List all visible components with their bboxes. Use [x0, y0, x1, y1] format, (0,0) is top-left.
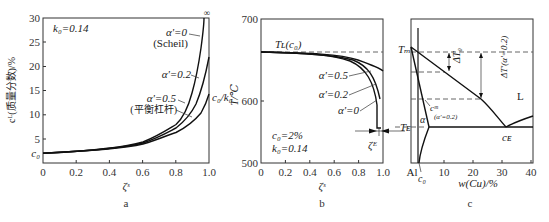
xtick: 0.4 — [303, 166, 317, 178]
ytick: 30 — [29, 12, 41, 24]
ytick: 5 — [35, 133, 41, 145]
xtick: 10 — [439, 166, 451, 178]
panel-b-ylabel: T/℃ — [228, 84, 240, 106]
xtick: 0 — [258, 166, 264, 178]
leader-b-alpha-0 — [360, 100, 377, 111]
panel-a-xlabel: ζˢ — [123, 180, 130, 193]
panel-a-ylabel: cᴸ(质量分数)/% — [5, 57, 18, 123]
infinity-label: ∞ — [204, 8, 210, 18]
label-b-alpha-0.2: α'=0.2 — [319, 88, 349, 100]
panel-b: 700 600 500 0 0.2 0.4 0.6 0.8 1.0 T/℃ ζˢ… — [228, 13, 411, 209]
ytick: 700 — [242, 13, 259, 25]
tl-label: Tʟ(c₀) — [275, 38, 302, 51]
label-scheil-sub: (Scheil) — [153, 37, 188, 50]
tm-label: Tₘ — [398, 43, 411, 55]
leader-c0 — [419, 163, 421, 172]
xtick: 0.2 — [279, 166, 293, 178]
liquidus-hypereutectic — [506, 116, 533, 127]
xtick: 0.6 — [136, 166, 150, 178]
ce-label: cᴇ — [502, 131, 512, 143]
ytick: 600 — [242, 95, 259, 107]
xtick: 1.0 — [376, 166, 390, 178]
alpha-label: α — [420, 114, 426, 125]
xtick: 40 — [526, 166, 538, 178]
label-alpha-0.5: α'=0.5 — [147, 92, 177, 104]
label-b-alpha-0.5: α'=0.5 — [319, 69, 349, 81]
delta-t0-arrow: ΔT₀ — [447, 48, 462, 71]
xtick: 30 — [497, 166, 509, 178]
label-b-alpha-0: α'=0 — [338, 104, 360, 116]
zeta-e-marker: ζᴱ — [355, 128, 405, 152]
label-alpha-0.2: α'=0.2 — [162, 68, 192, 80]
figure-canvas: 30 25 20 15 10 5 c₀ 0 0.2 0.4 0.6 0.8 1.… — [0, 0, 549, 222]
cm-label: cᵐ — [430, 103, 439, 113]
param-c0: c₀=2% — [272, 129, 303, 141]
param-k0: k₀=0.14 — [272, 142, 308, 154]
panel-a: 30 25 20 15 10 5 c₀ 0 0.2 0.4 0.6 0.8 1.… — [5, 8, 233, 209]
delta-t-prime-label: ΔT'(α'=0.2) — [499, 36, 509, 79]
delta-t0-label: ΔT₀ — [451, 48, 462, 64]
leader-alpha-0.2 — [191, 75, 199, 78]
ytick: 500 — [242, 157, 259, 169]
al-label: Al — [407, 166, 418, 178]
leader-b-alpha-0.2 — [349, 84, 376, 95]
xtick: 0.2 — [69, 166, 83, 178]
panel-b-xlabel: ζˢ — [319, 180, 326, 193]
xtick: 0.8 — [169, 166, 183, 178]
ytick: 20 — [29, 60, 41, 72]
xtick: 0.8 — [352, 166, 366, 178]
leader-scheil — [189, 34, 200, 36]
L-label: L — [517, 90, 524, 102]
delta-t-prime-arrow: ΔT'(α'=0.2) — [479, 36, 509, 98]
panel-c: 10 20 30 40 Al c₀ w(Cu)/% c ΔT₀ — [395, 19, 537, 209]
xtick: 0 — [40, 166, 46, 178]
zeta-e-label: ζᴱ — [368, 139, 377, 152]
k0-label: k₀=0.14 — [53, 22, 89, 34]
solvus-line — [419, 127, 429, 163]
ytick-c0: c₀ — [31, 147, 40, 159]
panel-b-caption: b — [319, 197, 325, 209]
c0-label: c₀ — [418, 173, 426, 184]
xtick: 1.0 — [202, 166, 216, 178]
ytick: 25 — [29, 36, 41, 48]
xtick: 0.4 — [103, 166, 117, 178]
panel-c-xlabel: w(Cu)/% — [458, 177, 498, 190]
panel-c-caption: c — [468, 197, 473, 209]
ytick: 15 — [29, 84, 41, 96]
ytick: 10 — [29, 108, 41, 120]
panel-c-frame — [411, 19, 533, 163]
xtick: 0.6 — [327, 166, 341, 178]
label-alpha-0.5-sub: (平衡杠杆) — [130, 103, 177, 116]
cm-sub-label: (α'=0.2) — [434, 113, 458, 121]
panel-a-caption: a — [124, 197, 129, 209]
